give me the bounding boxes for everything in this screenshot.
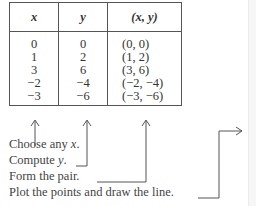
step-choose-x: Choose any x. (9, 136, 174, 152)
step-compute-y: Compute y. (9, 152, 174, 168)
step-instructions: Choose any x. Compute y. Form the pair. … (9, 136, 174, 200)
step-form-pair: Form the pair. (9, 168, 174, 184)
step-plot-line: Plot the points and draw the line. (9, 184, 174, 200)
arrow-plot (198, 131, 242, 198)
